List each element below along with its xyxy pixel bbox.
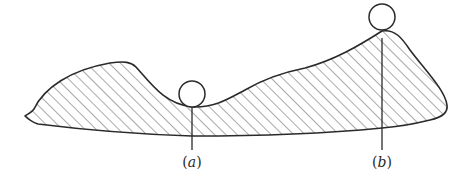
label-b: (b) [372,154,392,170]
ball-a [179,81,205,107]
label-a-var: a [188,154,196,170]
ball-b [369,4,395,30]
label-a: (a) [182,154,201,170]
label-b-close: ) [386,154,391,170]
terrain-hill-shape [25,31,447,136]
terrain-diagram [0,0,470,178]
label-a-close: ) [196,154,201,170]
